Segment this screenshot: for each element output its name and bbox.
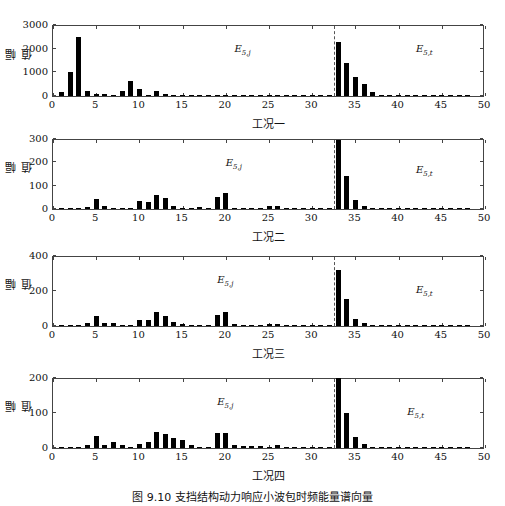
bar xyxy=(370,92,375,96)
bar xyxy=(68,325,73,326)
bar xyxy=(275,445,280,449)
y-tick-label: 200 xyxy=(8,157,48,167)
bar xyxy=(241,95,246,96)
bar xyxy=(223,433,228,448)
y-tick-mark xyxy=(53,185,56,186)
bar xyxy=(197,447,202,448)
x-tick-label: 50 xyxy=(474,452,494,462)
bar xyxy=(59,92,64,96)
bar xyxy=(336,270,341,326)
y-tick-label: 200 xyxy=(8,373,48,383)
bar xyxy=(102,94,107,96)
bar xyxy=(189,208,194,209)
bar xyxy=(379,325,384,326)
x-tick-label: 45 xyxy=(431,100,451,110)
bar xyxy=(318,95,323,96)
bar xyxy=(405,325,410,326)
x-tick-label: 50 xyxy=(474,213,494,223)
bar xyxy=(197,325,202,326)
bar xyxy=(102,445,107,449)
bar xyxy=(146,442,151,448)
bar xyxy=(267,447,272,448)
bar xyxy=(362,444,367,448)
bar xyxy=(465,95,470,96)
bar xyxy=(457,208,462,209)
bar xyxy=(362,84,367,96)
x-tick-mark xyxy=(485,379,486,382)
x-tick-mark xyxy=(53,379,54,382)
energy-label: E5,t xyxy=(416,164,433,178)
x-tick-label: 30 xyxy=(301,452,321,462)
x-axis-label: 工况二 xyxy=(228,228,308,244)
bar xyxy=(111,208,116,209)
bar xyxy=(128,447,133,448)
y-tick-mark xyxy=(480,290,483,291)
bar xyxy=(448,95,453,96)
bar xyxy=(353,319,358,326)
bar xyxy=(405,95,410,96)
bar xyxy=(267,206,272,209)
bar xyxy=(102,206,107,210)
x-tick-label: 35 xyxy=(344,452,364,462)
x-tick-mark xyxy=(269,140,270,143)
energy-label: E5,j xyxy=(226,157,242,171)
y-tick-mark xyxy=(53,95,56,96)
bar xyxy=(154,91,159,96)
x-tick-mark xyxy=(485,323,486,326)
bar xyxy=(206,447,211,448)
x-tick-label: 0 xyxy=(42,330,62,340)
x-tick-mark xyxy=(399,26,400,29)
bar xyxy=(68,208,73,209)
bar xyxy=(249,446,254,448)
bar xyxy=(249,95,254,96)
y-tick-mark xyxy=(480,208,483,209)
bar xyxy=(448,208,453,209)
bar xyxy=(223,312,228,326)
y-tick-mark xyxy=(53,412,56,413)
bar xyxy=(163,434,168,448)
bar xyxy=(387,95,392,96)
bar xyxy=(128,208,133,209)
bar xyxy=(457,325,462,326)
energy-label: E5,j xyxy=(217,396,233,410)
bar xyxy=(439,447,444,448)
energy-label: E5,j xyxy=(234,43,250,57)
y-tick-mark xyxy=(480,71,483,72)
bar xyxy=(137,444,142,448)
x-tick-mark xyxy=(442,257,443,260)
x-tick-label: 25 xyxy=(258,100,278,110)
bar xyxy=(465,208,470,209)
x-tick-label: 20 xyxy=(215,330,235,340)
bar xyxy=(448,447,453,448)
x-tick-label: 15 xyxy=(172,452,192,462)
y-tick-mark xyxy=(480,447,483,448)
bar xyxy=(180,95,185,96)
bar xyxy=(422,447,427,448)
y-tick-label: 3000 xyxy=(8,20,48,30)
bar xyxy=(120,325,125,326)
bar xyxy=(431,208,436,209)
x-tick-mark xyxy=(399,257,400,260)
bar xyxy=(284,325,289,326)
bar xyxy=(76,208,81,209)
bar xyxy=(154,195,159,209)
bar xyxy=(59,325,64,326)
bar xyxy=(180,440,185,448)
bar xyxy=(215,315,220,326)
bar xyxy=(146,95,151,96)
bar xyxy=(232,445,237,448)
bar xyxy=(422,95,427,96)
bar xyxy=(111,323,116,326)
y-tick-mark xyxy=(53,255,56,256)
x-tick-mark xyxy=(355,26,356,29)
x-tick-label: 20 xyxy=(215,452,235,462)
x-tick-mark xyxy=(269,257,270,260)
y-tick-mark xyxy=(53,71,56,72)
bar xyxy=(154,312,159,326)
bar xyxy=(284,208,289,209)
bar xyxy=(223,193,228,209)
y-tick-mark xyxy=(53,325,56,326)
bar xyxy=(94,436,99,448)
x-tick-label: 45 xyxy=(431,213,451,223)
bar xyxy=(301,447,306,448)
